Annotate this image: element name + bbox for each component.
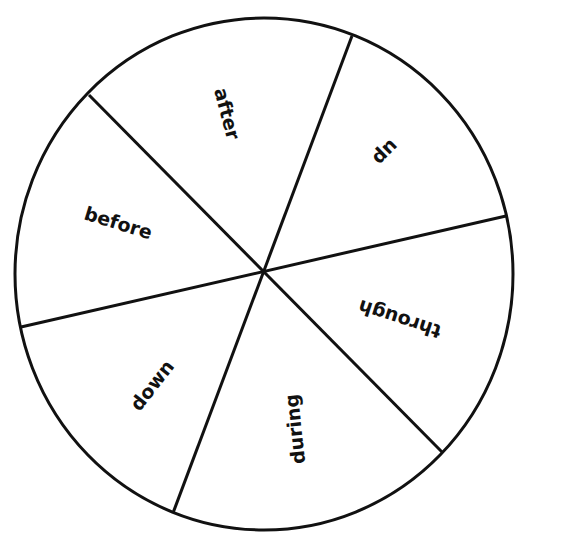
spinner-diagram: after up through during down before [0, 0, 568, 541]
